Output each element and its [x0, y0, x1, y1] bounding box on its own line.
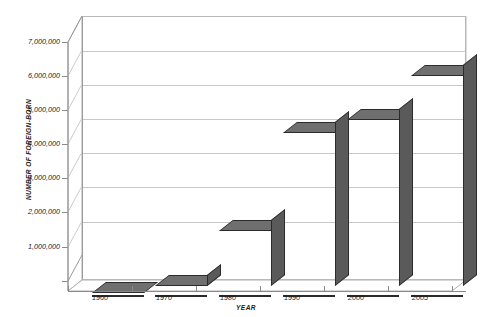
- x-tick-4: [324, 286, 325, 292]
- y-axis-tick-labels: 7,000,000 6,000,000 5,000,000 4,000,000 …: [8, 0, 60, 317]
- gridline-5000000: [83, 85, 465, 86]
- x-tick-label-1970: 1970: [132, 293, 196, 302]
- y-tick-label-4000000: 4,000,000: [8, 140, 60, 148]
- x-tick-0: [68, 286, 69, 292]
- bar-chart: NUMBER OF FOREIGN-BORN 7,000,000 6,000,0…: [0, 0, 492, 317]
- y-tick-label-5000000: 5,000,000: [8, 106, 60, 114]
- y-tick-label-2000000: 2,000,000: [8, 208, 60, 216]
- y-tick-mark-6000000: [62, 76, 68, 77]
- x-tick-label-1980: 1980: [196, 293, 260, 302]
- x-tick-1: [132, 286, 133, 292]
- x-tick-label-1960: 1960: [68, 293, 132, 302]
- y-tick-label-zero: -: [16, 276, 68, 285]
- y-tick-mark-3000000: [62, 178, 68, 179]
- y-tick-mark-zero: [62, 281, 68, 282]
- x-tick-2: [196, 286, 197, 292]
- y-tick-mark-4000000: [62, 144, 68, 145]
- x-tick-3: [260, 286, 261, 292]
- bar-2000: [347, 120, 399, 297]
- bar-1990: [283, 133, 335, 297]
- bar-2005-side: [463, 54, 477, 286]
- y-tick-label-3000000: 3,000,000: [8, 174, 60, 182]
- bar-2005: [411, 76, 463, 297]
- y-tick-label-7000000: 7,000,000: [8, 38, 60, 46]
- x-tick-6: [452, 286, 453, 292]
- x-tick-label-2000: 2000: [324, 293, 388, 302]
- y-tick-label-6000000: 6,000,000: [8, 72, 60, 80]
- x-axis-line: [68, 291, 466, 292]
- gridline-6000000: [83, 51, 465, 52]
- x-tick-label-1990: 1990: [260, 293, 324, 302]
- y-tick-mark-5000000: [62, 110, 68, 111]
- y-tick-mark-7000000: [62, 42, 68, 43]
- y-tick-mark-2000000: [62, 212, 68, 213]
- bar-1980: [219, 231, 271, 297]
- y-tick-mark-1000000: [62, 247, 68, 248]
- x-tick-5: [388, 286, 389, 292]
- x-tick-label-2005: 2005: [388, 293, 452, 302]
- x-axis-title: YEAR: [0, 304, 492, 311]
- y-tick-label-1000000: 1,000,000: [8, 243, 60, 251]
